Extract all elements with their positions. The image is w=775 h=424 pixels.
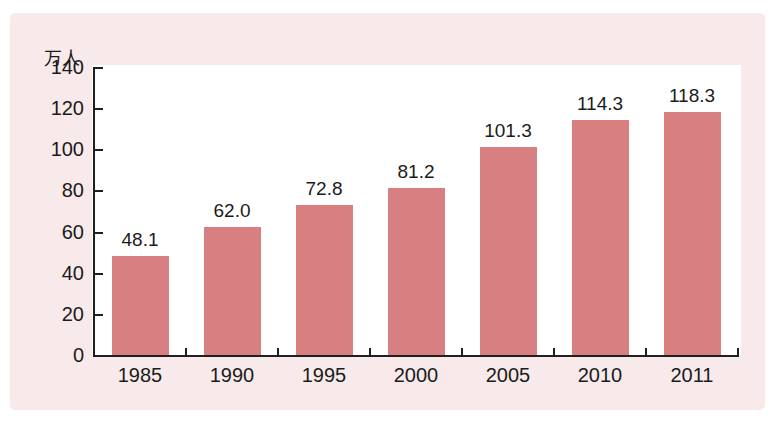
- y-tick-label: 100: [18, 139, 84, 159]
- y-tick-label: 0: [18, 345, 84, 365]
- bar-value-label: 62.0: [187, 200, 277, 222]
- x-tick: [553, 348, 555, 355]
- bar-value-label: 114.3: [555, 93, 645, 115]
- x-category-label: 1990: [187, 364, 277, 386]
- x-tick: [369, 348, 371, 355]
- x-tick: [645, 348, 647, 355]
- bar-value-label: 72.8: [279, 178, 369, 200]
- y-tick: [95, 108, 103, 110]
- y-tick-label: 20: [18, 304, 84, 324]
- x-category-label: 2005: [463, 364, 553, 386]
- bar: [388, 188, 445, 355]
- bar-value-label: 118.3: [647, 85, 737, 107]
- x-category-label: 2011: [647, 364, 737, 386]
- chart-figure: 万人 02040608010012014048.1198562.0199072.…: [0, 0, 775, 424]
- y-tick-label: 120: [18, 98, 84, 118]
- x-category-label: 2010: [555, 364, 645, 386]
- y-tick-label: 40: [18, 263, 84, 283]
- x-tick: [737, 348, 739, 355]
- y-tick: [95, 190, 103, 192]
- bar: [664, 112, 721, 355]
- bar-value-label: 81.2: [371, 161, 461, 183]
- x-axis-line: [93, 355, 739, 357]
- bar: [480, 147, 537, 355]
- bar: [296, 205, 353, 355]
- x-category-label: 1985: [95, 364, 185, 386]
- x-tick: [185, 348, 187, 355]
- y-tick: [95, 67, 103, 69]
- bar-value-label: 101.3: [463, 120, 553, 142]
- y-tick-label: 80: [18, 180, 84, 200]
- chart-layer: 02040608010012014048.1198562.0199072.819…: [0, 0, 775, 424]
- x-tick: [461, 348, 463, 355]
- y-tick: [95, 273, 103, 275]
- y-tick: [95, 149, 103, 151]
- y-tick-label: 60: [18, 222, 84, 242]
- bar-value-label: 48.1: [95, 229, 185, 251]
- x-tick: [277, 348, 279, 355]
- bar: [112, 256, 169, 355]
- x-category-label: 2000: [371, 364, 461, 386]
- bar: [204, 227, 261, 355]
- y-tick: [95, 314, 103, 316]
- y-tick-label: 140: [18, 57, 84, 77]
- x-category-label: 1995: [279, 364, 369, 386]
- bar: [572, 120, 629, 355]
